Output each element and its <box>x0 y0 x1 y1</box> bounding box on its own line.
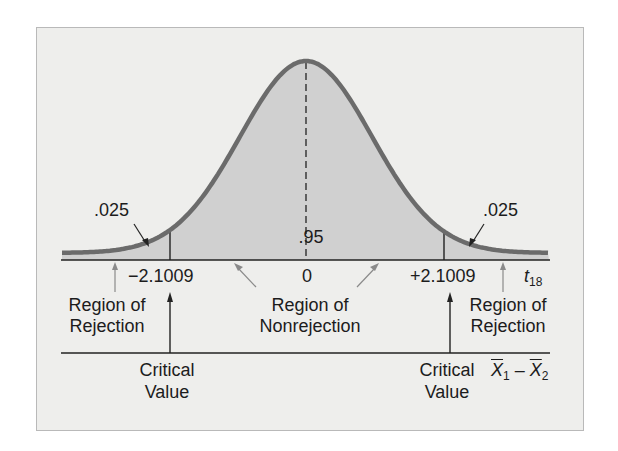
left-critical-label-line2: Value <box>145 382 190 403</box>
nonrejection-label-line2: Nonrejection <box>259 316 360 337</box>
x1-subscript: 1 <box>503 369 510 383</box>
t-distribution-diagram <box>0 0 618 451</box>
left-critical-value-arrow <box>167 292 173 353</box>
right-tail-pointer-arrow <box>469 224 484 247</box>
right-rejection-label-line2: Rejection <box>470 316 545 337</box>
right-tail-probability: .025 <box>483 200 518 221</box>
left-tail-probability: .025 <box>94 200 129 221</box>
right-rejection-gray-arrow <box>500 262 506 292</box>
tick-left-critical: −2.1009 <box>128 266 194 287</box>
minus-sign: – <box>515 360 525 380</box>
left-rejection-label-line2: Rejection <box>69 316 144 337</box>
nonrejection-right-gray-arrow <box>357 263 379 287</box>
center-probability: .95 <box>298 227 323 248</box>
right-rejection-label-line1: Region of <box>469 295 546 316</box>
t-axis-df: 18 <box>529 275 542 289</box>
left-rejection-gray-arrow <box>112 262 118 292</box>
x2-subscript: 2 <box>542 369 549 383</box>
x2-bar-symbol: X <box>530 360 542 380</box>
right-critical-value-arrow <box>447 292 453 353</box>
x1-bar-symbol: X <box>491 360 503 380</box>
nonrejection-label-line1: Region of <box>271 295 348 316</box>
right-critical-label-line1: Critical <box>419 360 474 381</box>
mean-difference-axis-name: X1 – X2 <box>491 360 548 383</box>
tick-right-critical: +2.1009 <box>410 266 476 287</box>
tick-zero: 0 <box>302 266 312 287</box>
right-critical-label-line2: Value <box>425 382 470 403</box>
nonrejection-left-gray-arrow <box>234 263 256 287</box>
t-axis-name: t18 <box>524 266 542 289</box>
left-critical-label-line1: Critical <box>139 360 194 381</box>
left-rejection-label-line1: Region of <box>68 295 145 316</box>
